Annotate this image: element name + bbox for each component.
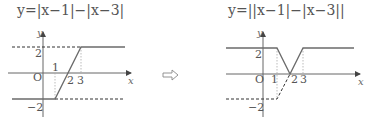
right-tick-1: 1 — [271, 73, 278, 86]
left-x-label: x — [128, 75, 134, 86]
left-y-label: y — [36, 27, 43, 38]
graphs-canvas: y x O 1 2 3 2 −2 y x O 1 2 3 2 −2 — [0, 0, 379, 125]
right-graph: y x O 1 2 3 2 −2 — [226, 27, 364, 117]
left-tick-1: 1 — [52, 61, 59, 74]
right-y-label: y — [256, 27, 263, 38]
left-tick-2: 2 — [67, 74, 74, 87]
right-curve — [226, 48, 354, 74]
left-tick-3: 3 — [77, 74, 84, 87]
left-tick-ym2: −2 — [27, 101, 43, 114]
right-tick-3: 3 — [300, 73, 307, 86]
right-x-label: x — [358, 76, 364, 87]
left-graph: y x O 1 2 3 2 −2 — [8, 27, 134, 117]
right-origin-label: O — [255, 73, 264, 86]
left-tick-y2: 2 — [35, 47, 42, 60]
right-tick-ym2: −2 — [248, 101, 264, 114]
right-tick-y2: 2 — [255, 48, 262, 61]
left-origin-label: O — [33, 71, 42, 84]
right-tick-2: 2 — [291, 73, 298, 86]
transform-arrow-icon — [163, 70, 178, 80]
